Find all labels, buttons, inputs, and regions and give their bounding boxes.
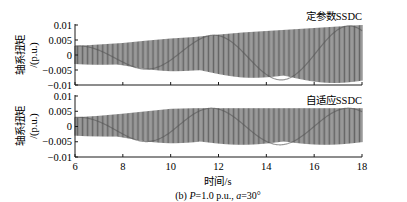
top-panel-label: 定参数SSDC bbox=[306, 10, 362, 22]
bottom-y-ticks: 0.010.0050−0.005−0.01 bbox=[42, 91, 78, 163]
svg-text:0.005: 0.005 bbox=[48, 35, 72, 46]
svg-text:16: 16 bbox=[309, 161, 320, 172]
bottom-y-label: 轴系扭矩 /(p.u.) bbox=[14, 106, 40, 146]
bottom-panel-label: 自适应SSDC bbox=[306, 94, 362, 106]
svg-text:轴系扭矩: 轴系扭矩 bbox=[14, 35, 26, 75]
svg-text:8: 8 bbox=[120, 161, 125, 172]
svg-text:6: 6 bbox=[72, 161, 77, 172]
svg-text:0: 0 bbox=[67, 121, 72, 132]
svg-text:12: 12 bbox=[213, 161, 224, 172]
top-panel: 0.010.0050−0.005−0.01 定参数SSDC 轴系扭矩 /(p.u… bbox=[14, 10, 362, 91]
svg-text:/(p.u.): /(p.u.) bbox=[28, 42, 40, 68]
svg-text:−0.01: −0.01 bbox=[48, 152, 72, 163]
svg-text:0: 0 bbox=[67, 50, 72, 61]
top-y-ticks: 0.010.0050−0.005−0.01 bbox=[42, 20, 78, 91]
svg-text:轴系扭矩: 轴系扭矩 bbox=[14, 106, 26, 146]
svg-text:14: 14 bbox=[261, 161, 272, 172]
x-axis-label: 时间/s bbox=[204, 175, 231, 187]
top-waveform bbox=[75, 25, 362, 83]
svg-text:0.005: 0.005 bbox=[48, 106, 72, 117]
svg-text:10: 10 bbox=[165, 161, 176, 172]
svg-text:0.01: 0.01 bbox=[54, 91, 72, 102]
figure-caption: (b) P=1.0 p.u., a=30° bbox=[175, 190, 261, 202]
svg-text:18: 18 bbox=[357, 161, 368, 172]
svg-text:−0.005: −0.005 bbox=[42, 65, 72, 76]
bottom-panel: 0.010.0050−0.005−0.01 681012141618 自适应SS… bbox=[14, 91, 367, 173]
svg-text:/(p.u.): /(p.u.) bbox=[28, 113, 40, 139]
top-y-label: 轴系扭矩 /(p.u.) bbox=[14, 35, 40, 75]
bottom-waveform bbox=[75, 108, 362, 145]
svg-text:0.01: 0.01 bbox=[54, 20, 72, 31]
figure: 0.010.0050−0.005−0.01 定参数SSDC 轴系扭矩 /(p.u… bbox=[0, 0, 407, 202]
svg-text:−0.005: −0.005 bbox=[42, 136, 72, 147]
svg-text:−0.01: −0.01 bbox=[48, 80, 72, 91]
